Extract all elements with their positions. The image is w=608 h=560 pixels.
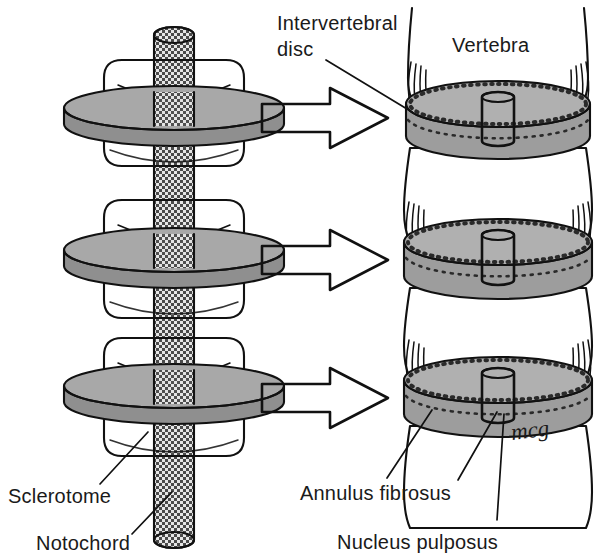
artist-signature: mcg	[510, 415, 551, 444]
intervertebral-disc-middle	[404, 219, 592, 299]
label-annulus-fibrosus: Annulus fibrosus	[300, 482, 451, 504]
intervertebral-disc-top	[406, 81, 590, 159]
label-notochord: Notochord	[36, 532, 130, 554]
label-nucleus-pulposus: Nucleus pulposus	[337, 531, 498, 553]
anatomy-diagram: Intervertebral disc Vertebra Sclerotome …	[0, 0, 608, 560]
label-intervertebral-disc-line2: disc	[277, 38, 313, 60]
label-sclerotome: Sclerotome	[8, 485, 111, 507]
intervertebral-disc-bottom	[404, 357, 592, 437]
notochord-through-plate-bottom	[154, 370, 194, 404]
figure-root: Intervertebral disc Vertebra Sclerotome …	[0, 0, 608, 560]
notochord-through-plate-top	[154, 92, 194, 126]
label-vertebra: Vertebra	[452, 34, 530, 56]
label-intervertebral-disc-line1: Intervertebral	[277, 12, 398, 34]
notochord-through-plate-middle	[154, 234, 194, 268]
